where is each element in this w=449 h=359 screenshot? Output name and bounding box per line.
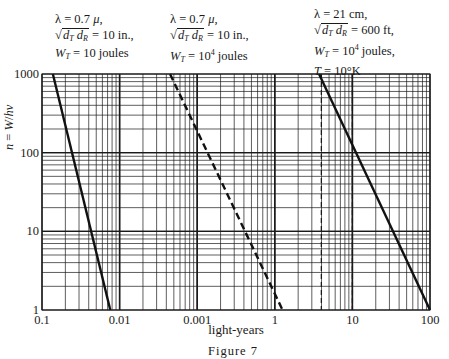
annotation-series-1: λ = 0.7 μ, √dT dR = 10 in., WT = 10 joul… xyxy=(55,11,134,65)
grid-lines xyxy=(42,74,430,310)
annotation-line-energy: WT = 104 joules, xyxy=(314,40,395,63)
annotation-line-sqrt: √dT dR = 600 ft, xyxy=(314,22,395,40)
x-tick-label: 100 xyxy=(421,313,440,327)
series-line-2 xyxy=(170,74,283,310)
annotation-line-sqrt: √dT dR = 10 in., xyxy=(55,27,134,45)
annotation-series-2: λ = 0.7 μ, √dT dR = 10 in., WT = 104 jou… xyxy=(170,11,249,68)
y-axis-slash: / xyxy=(2,117,16,120)
x-tick-label: 0.1 xyxy=(34,313,50,327)
series-lines xyxy=(53,74,430,310)
y-axis-h: h xyxy=(2,110,16,116)
y-tick-labels: 1101001000 xyxy=(14,67,39,317)
figure-caption: Figure 7 xyxy=(208,344,258,359)
y-axis-n: n xyxy=(2,144,16,150)
x-tick-label: 10 xyxy=(346,313,359,327)
y-tick-label: 1000 xyxy=(14,67,39,81)
x-tick-label: 0.01 xyxy=(109,313,131,327)
series-line-3 xyxy=(319,74,430,310)
annotation-line-sqrt: √dT dR = 10 in., xyxy=(170,27,249,45)
y-axis-eq: = xyxy=(2,130,16,143)
plot-frame xyxy=(42,74,430,310)
annotation-line-energy: WT = 10 joules xyxy=(55,45,134,65)
y-axis-w: W xyxy=(2,120,16,130)
annotation-line-temperature: T = 10°K xyxy=(314,63,395,79)
annotation-line-energy: WT = 104 joules xyxy=(170,45,249,68)
annotation-line-lambda: λ = 21 cm, xyxy=(314,6,395,22)
x-tick-label: 0.001 xyxy=(183,313,211,327)
series-line-1 xyxy=(53,74,110,310)
annotation-line-lambda: λ = 0.7 μ, xyxy=(55,11,134,27)
y-tick-label: 100 xyxy=(20,146,39,160)
y-axis-title: n = W/hν xyxy=(2,105,17,150)
annotation-line-lambda: λ = 0.7 μ, xyxy=(170,11,249,27)
x-axis-title: light-years xyxy=(208,322,264,337)
y-tick-label: 10 xyxy=(27,224,40,238)
x-tick-label: 1 xyxy=(272,313,278,327)
y-axis-nu: ν xyxy=(2,105,16,111)
annotation-series-3: λ = 21 cm, √dT dR = 600 ft, WT = 104 jou… xyxy=(314,6,395,79)
